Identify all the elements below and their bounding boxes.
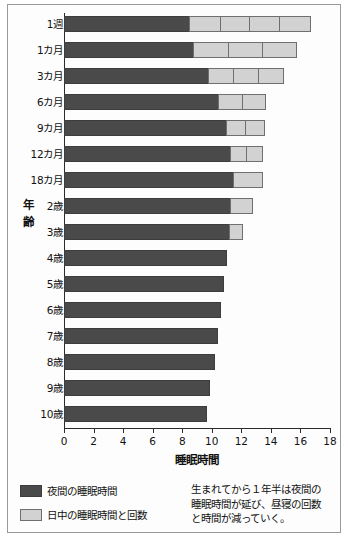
stacked-bar (64, 224, 243, 240)
y-axis-label: 年齢 (20, 197, 36, 231)
chart-legend: 夜間の睡眠時間 日中の睡眠時間と回数 (20, 483, 180, 531)
category-label: 18カ月 (8, 169, 63, 191)
x-axis-tick (330, 428, 331, 433)
category-label: 6カ月 (8, 91, 63, 113)
stacked-bar (64, 172, 263, 188)
bar-segment-night (64, 120, 227, 136)
stacked-bar (64, 406, 207, 422)
x-axis-tick-label: 8 (170, 435, 194, 447)
bar-segment-nap (245, 120, 265, 136)
bar-row: 3歳 (8, 221, 342, 243)
category-label: 9カ月 (8, 117, 63, 139)
stacked-bar (64, 328, 218, 344)
bar-segment-night (64, 354, 215, 370)
bar-segment-night (64, 380, 210, 396)
legend-swatch-night-icon (20, 485, 42, 497)
stacked-bar (64, 380, 210, 396)
bar-segment-night (64, 276, 224, 292)
bar-segment-nap (233, 68, 259, 84)
x-axis-tick (123, 428, 124, 433)
bar-segment-night (64, 198, 231, 214)
category-label: 5歳 (8, 273, 63, 295)
x-axis-tick-label: 12 (229, 435, 253, 447)
bar-segment-night (64, 42, 194, 58)
bar-row: 4歳 (8, 247, 342, 269)
x-axis-tick-label: 10 (200, 435, 224, 447)
bar-row: 6歳 (8, 299, 342, 321)
bar-row: 1週 (8, 13, 342, 35)
category-label: 4歳 (8, 247, 63, 269)
bar-segment-nap (258, 68, 284, 84)
legend-label-nap: 日中の睡眠時間と回数 (47, 507, 147, 522)
category-label: 10歳 (8, 403, 63, 425)
bar-segment-nap (242, 94, 267, 110)
bar-row: 18カ月 (8, 169, 342, 191)
legend-label-night: 夜間の睡眠時間 (47, 483, 117, 498)
bar-row: 9歳 (8, 377, 342, 399)
stacked-bar (64, 94, 266, 110)
chart-figure: 1週1カ月3カ月6カ月9カ月12カ月18カ月2歳3歳4歳5歳6歳7歳8歳9歳10… (7, 4, 341, 533)
bar-segment-nap (218, 94, 243, 110)
category-label: 1週 (8, 13, 63, 35)
bar-row: 8歳 (8, 351, 342, 373)
bar-row: 3カ月 (8, 65, 342, 87)
bar-row: 12カ月 (8, 143, 342, 165)
bar-segment-night (64, 16, 190, 32)
stacked-bar (64, 146, 263, 162)
annotation-line-2: 睡眠時間が延び、昼寝の回数 (191, 497, 333, 512)
stacked-bar (64, 16, 311, 32)
x-axis-tick-label: 16 (288, 435, 312, 447)
category-label: 6歳 (8, 299, 63, 321)
category-label: 8歳 (8, 351, 63, 373)
bar-segment-nap (246, 146, 263, 162)
stacked-bar (64, 302, 221, 318)
bar-segment-nap (189, 16, 221, 32)
legend-swatch-nap-icon (20, 509, 42, 521)
stacked-bar (64, 120, 265, 136)
bar-row: 10歳 (8, 403, 342, 425)
y-axis-label-char: 齢 (20, 214, 36, 231)
category-label: 1カ月 (8, 39, 63, 61)
x-axis-tick (212, 428, 213, 433)
bar-segment-night (64, 250, 227, 266)
category-label: 7歳 (8, 325, 63, 347)
category-label: 3カ月 (8, 65, 63, 87)
chart-annotation: 生まれてから１年半は夜間の 睡眠時間が延び、昼寝の回数 と時間が減っていく。 (191, 482, 333, 526)
bar-segment-nap (249, 16, 280, 32)
x-axis-tick (64, 428, 65, 433)
bar-segment-nap (229, 224, 243, 240)
bar-segment-nap (220, 16, 251, 32)
bar-segment-night (64, 68, 209, 84)
bar-segment-nap (279, 16, 311, 32)
bar-segment-nap (233, 172, 264, 188)
x-axis-label: 睡眠時間 (64, 451, 330, 467)
bar-row: 6カ月 (8, 91, 342, 113)
x-axis-tick-label: 14 (259, 435, 283, 447)
stacked-bar (64, 198, 253, 214)
y-axis-label-char: 年 (20, 197, 36, 214)
annotation-line-1: 生まれてから１年半は夜間の (191, 482, 333, 497)
x-axis-tick-label: 6 (141, 435, 165, 447)
stacked-bar (64, 354, 215, 370)
x-axis-tick-label: 18 (318, 435, 342, 447)
bar-row: 2歳 (8, 195, 342, 217)
x-axis-tick-label: 4 (111, 435, 135, 447)
x-axis-line (64, 428, 330, 429)
annotation-line-3: と時間が減っていく。 (191, 511, 333, 526)
bar-segment-night (64, 94, 219, 110)
bar-row: 1カ月 (8, 39, 342, 61)
bar-segment-nap (226, 120, 246, 136)
bar-segment-night (64, 146, 231, 162)
bar-segment-nap (230, 198, 253, 214)
stacked-bar (64, 250, 227, 266)
stacked-bar (64, 68, 284, 84)
bar-segment-night (64, 302, 221, 318)
bar-segment-nap (230, 146, 247, 162)
x-axis-tick (94, 428, 95, 433)
x-axis-tick (300, 428, 301, 433)
stacked-bar (64, 42, 297, 58)
x-axis-tick (153, 428, 154, 433)
category-label: 9歳 (8, 377, 63, 399)
bar-row: 7歳 (8, 325, 342, 347)
x-axis-tick-label: 2 (82, 435, 106, 447)
